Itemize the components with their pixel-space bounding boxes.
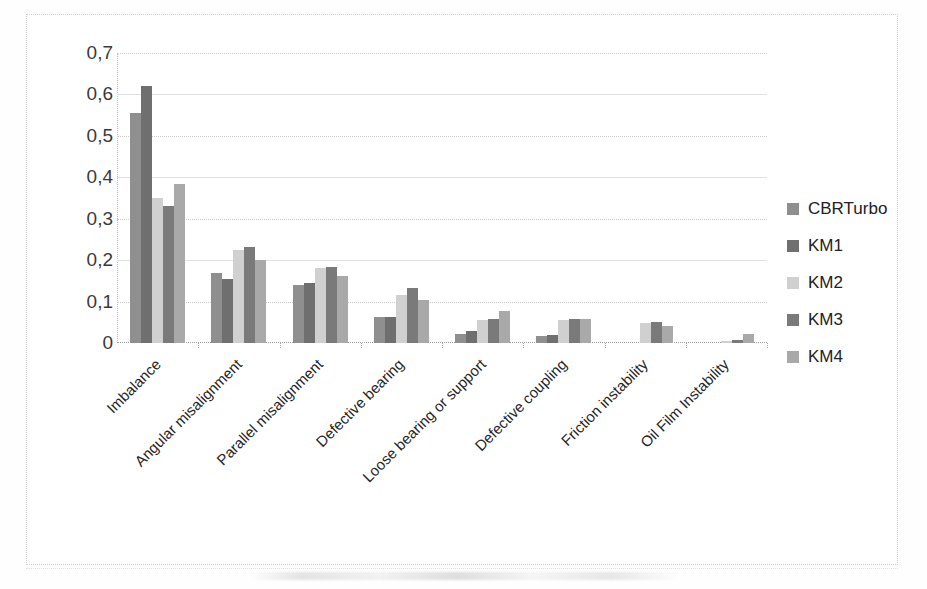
y-axis-tick-label: 0,4 xyxy=(53,166,113,188)
bar xyxy=(488,319,499,343)
bar xyxy=(651,322,662,343)
category-tick xyxy=(767,343,768,348)
legend-label: KM1 xyxy=(808,236,843,256)
y-axis-tick-label: 0,5 xyxy=(53,125,113,147)
legend-label: CBRTurbo xyxy=(808,199,887,219)
plot-area: 0,70,60,50,40,30,20,10 xyxy=(117,53,767,343)
bar xyxy=(477,320,488,343)
bar-group xyxy=(117,53,198,343)
bar xyxy=(130,113,141,343)
chart-frame: 0,70,60,50,40,30,20,10 ImbalanceAngular … xyxy=(26,14,898,565)
bar-group xyxy=(198,53,279,343)
bar xyxy=(244,247,255,343)
y-axis-tick-label: 0,2 xyxy=(53,249,113,271)
bar xyxy=(293,285,304,343)
legend-item[interactable]: KM1 xyxy=(787,227,917,264)
category-tick xyxy=(442,343,443,348)
bar xyxy=(455,334,466,343)
bar xyxy=(152,198,163,343)
page-rule xyxy=(26,568,898,569)
y-axis-tick-label: 0,3 xyxy=(53,208,113,230)
category-tick xyxy=(198,343,199,348)
bar xyxy=(721,341,732,343)
bar xyxy=(337,276,348,343)
legend-label: KM4 xyxy=(808,347,843,367)
bar xyxy=(211,273,222,343)
legend-swatch-icon xyxy=(787,203,799,215)
bar xyxy=(163,206,174,343)
bar xyxy=(222,279,233,343)
bar xyxy=(255,260,266,343)
y-axis-tick-label: 0,7 xyxy=(53,42,113,64)
chart-legend: CBRTurboKM1KM2KM3KM4 xyxy=(787,190,917,375)
bar xyxy=(732,340,743,343)
y-axis-tick-label: 0,1 xyxy=(53,291,113,313)
y-axis-tick-label: 0,6 xyxy=(53,83,113,105)
legend-item[interactable]: KM2 xyxy=(787,264,917,301)
bar xyxy=(536,336,547,343)
y-axis-tick-label: 0 xyxy=(53,332,113,354)
legend-label: KM2 xyxy=(808,273,843,293)
bar xyxy=(407,288,418,343)
bar xyxy=(418,300,429,344)
bar-group xyxy=(361,53,442,343)
bar xyxy=(141,86,152,343)
legend-swatch-icon xyxy=(787,314,799,326)
scanned-page: 0,70,60,50,40,30,20,10 ImbalanceAngular … xyxy=(0,0,927,589)
bar xyxy=(326,267,337,343)
legend-item[interactable]: KM3 xyxy=(787,301,917,338)
legend-swatch-icon xyxy=(787,277,799,289)
legend-swatch-icon xyxy=(787,240,799,252)
category-tick xyxy=(605,343,606,348)
bar xyxy=(547,335,558,343)
bar xyxy=(374,317,385,343)
bar xyxy=(396,295,407,343)
bar-group xyxy=(523,53,604,343)
bar xyxy=(315,268,326,343)
bar xyxy=(743,334,754,343)
scan-artifact-smudge xyxy=(250,572,680,580)
bar-group xyxy=(280,53,361,343)
bar xyxy=(569,319,580,343)
legend-item[interactable]: KM4 xyxy=(787,338,917,375)
category-tick xyxy=(280,343,281,348)
legend-label: KM3 xyxy=(808,310,843,330)
bar-group xyxy=(605,53,686,343)
bar xyxy=(580,319,591,343)
bar-group xyxy=(442,53,523,343)
bar xyxy=(304,283,315,343)
bar xyxy=(385,317,396,343)
bar xyxy=(499,311,510,343)
legend-swatch-icon xyxy=(787,351,799,363)
bar xyxy=(466,331,477,343)
legend-item[interactable]: CBRTurbo xyxy=(787,190,917,227)
category-tick xyxy=(523,343,524,348)
bar-group xyxy=(686,53,767,343)
bar xyxy=(174,184,185,344)
bar xyxy=(233,250,244,343)
bar xyxy=(662,326,673,343)
bar xyxy=(640,323,651,343)
category-tick xyxy=(686,343,687,348)
category-tick xyxy=(361,343,362,348)
bar xyxy=(558,320,569,343)
